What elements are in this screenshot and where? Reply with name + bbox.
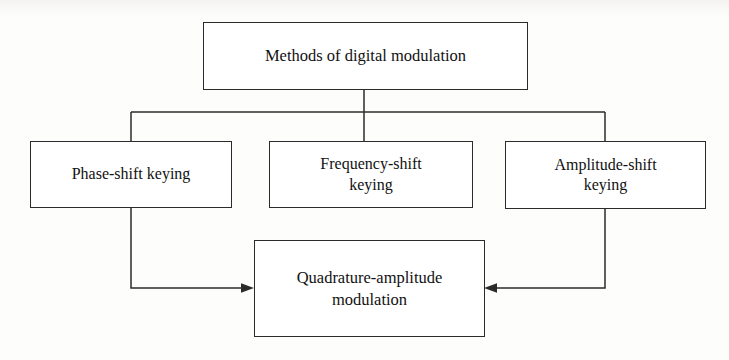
- node-fsk-label: Frequency-shift keying: [314, 154, 427, 195]
- edge-ask-to-qam: [489, 209, 605, 288]
- diagram-canvas: Methods of digital modulation Phase-shif…: [0, 0, 729, 360]
- node-root-label: Methods of digital modulation: [259, 45, 472, 66]
- node-phase-shift-keying: Phase-shift keying: [30, 141, 232, 208]
- node-quadrature-amplitude-modulation: Quadrature-amplitude modulation: [254, 240, 485, 337]
- node-ask-label: Amplitude-shift keying: [548, 155, 662, 196]
- node-psk-label: Phase-shift keying: [66, 164, 197, 184]
- node-amplitude-shift-keying: Amplitude-shift keying: [505, 141, 706, 209]
- node-qam-label: Quadrature-amplitude modulation: [291, 267, 449, 309]
- arrowhead-into-qam-right: [484, 283, 497, 293]
- node-frequency-shift-keying: Frequency-shift keying: [269, 141, 473, 208]
- arrowhead-into-qam-left: [241, 283, 254, 293]
- edge-psk-to-qam: [131, 208, 250, 288]
- node-methods-of-digital-modulation: Methods of digital modulation: [203, 22, 528, 90]
